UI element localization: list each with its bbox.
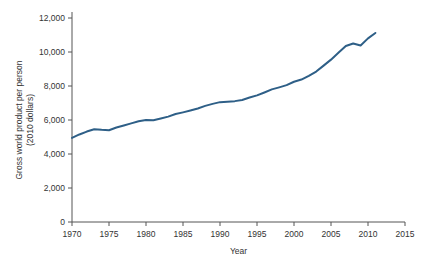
x-axis-label: Year <box>230 246 247 256</box>
y-axis-label-line1: Gross world product per person <box>14 60 24 179</box>
data-series-group <box>72 33 375 138</box>
y-tick-label: 2,000 <box>44 183 66 193</box>
x-tick-label: 1990 <box>211 229 230 239</box>
y-tick-label: 0 <box>60 217 65 227</box>
x-tick-label: 2000 <box>285 229 304 239</box>
axes: 02,0004,0006,0008,00010,00012,000 197019… <box>39 12 415 239</box>
y-tick-label: 4,000 <box>44 149 66 159</box>
x-tick-label: 1975 <box>100 229 119 239</box>
series-line-gross-world-product <box>72 33 375 138</box>
y-axis-label-line2: (2010 dollars) <box>25 94 35 146</box>
x-tick-label: 1970 <box>63 229 82 239</box>
x-axis-ticks: 1970197519801985199019952000200520102015 <box>63 222 415 239</box>
chart-container: 02,0004,0006,0008,00010,00012,000 197019… <box>0 0 423 270</box>
y-tick-label: 10,000 <box>39 47 65 57</box>
y-axis-ticks: 02,0004,0006,0008,00010,00012,000 <box>39 13 72 227</box>
y-tick-label: 6,000 <box>44 115 66 125</box>
x-tick-label: 1980 <box>137 229 156 239</box>
x-tick-label: 1995 <box>248 229 267 239</box>
y-tick-label: 12,000 <box>39 13 65 23</box>
x-tick-label: 2010 <box>359 229 378 239</box>
y-tick-label: 8,000 <box>44 81 66 91</box>
line-chart: 02,0004,0006,0008,00010,00012,000 197019… <box>0 0 423 270</box>
x-tick-label: 2005 <box>322 229 341 239</box>
x-tick-label: 2015 <box>396 229 415 239</box>
x-tick-label: 1985 <box>174 229 193 239</box>
